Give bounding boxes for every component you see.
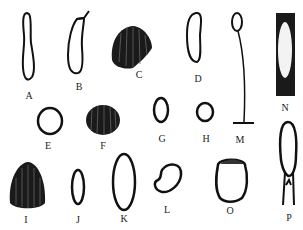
label-b: B — [72, 82, 86, 92]
specimen-n — [276, 13, 295, 96]
specimen-d — [187, 13, 201, 62]
label-o: O — [223, 206, 237, 216]
specimen-i — [10, 162, 45, 208]
label-f: F — [96, 141, 110, 151]
label-j: J — [71, 215, 85, 225]
specimen-b-stalk — [77, 11, 89, 19]
label-e: E — [41, 141, 55, 151]
label-k: K — [117, 214, 131, 224]
specimen-g — [154, 98, 168, 122]
label-g: G — [155, 134, 169, 144]
specimen-e — [38, 108, 62, 134]
label-a: A — [22, 91, 36, 101]
label-p: P — [282, 213, 296, 223]
specimen-a — [23, 13, 34, 80]
specimen-figure — [0, 0, 303, 230]
label-m: M — [233, 135, 247, 145]
label-l: L — [160, 205, 174, 215]
specimen-h — [197, 103, 213, 121]
specimen-p — [280, 122, 296, 205]
label-d: D — [191, 74, 205, 84]
specimen-b — [68, 18, 84, 73]
label-c: C — [132, 70, 146, 80]
specimen-k — [113, 154, 135, 210]
specimen-l — [155, 165, 181, 193]
specimen-m — [232, 13, 254, 123]
specimen-f — [86, 105, 120, 135]
specimen-c — [112, 26, 152, 69]
label-i: I — [19, 215, 33, 225]
specimen-o — [216, 160, 247, 202]
label-n: N — [278, 103, 292, 113]
label-h: H — [199, 134, 213, 144]
specimen-j — [72, 170, 84, 204]
